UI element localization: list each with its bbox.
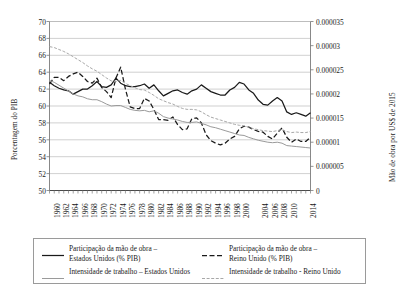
chart-container: Porcentagem do PIB Mão de obra por US$ d…: [0, 0, 400, 294]
x-tick-label: 2004: [261, 203, 270, 218]
y-tick-label-right: 0: [316, 186, 320, 195]
y-tick-label-left: 52: [39, 169, 46, 178]
legend-swatch-icon: [42, 269, 64, 278]
x-tick-label: 1968: [90, 203, 99, 218]
x-tick-label: 1978: [138, 203, 147, 218]
y-tick-label-right: 0.000035: [316, 17, 344, 26]
x-tick-label: 1990: [195, 203, 204, 218]
y-tick-label-left: 54: [39, 152, 46, 161]
x-tick-label: 2008: [280, 203, 289, 218]
y-tick-label-left: 56: [39, 135, 46, 144]
y-tick-label-left: 62: [39, 85, 46, 94]
x-tick-label: 1964: [71, 203, 80, 218]
y-tick-label-right: 0.000005: [316, 162, 344, 171]
x-tick-label: 1986: [176, 203, 185, 218]
legend-item: Intensidade de trabalho - Reino Unido: [202, 267, 362, 278]
y-tick-label-right: 0.00002: [316, 89, 340, 98]
y-tick-label-right: 0.000025: [316, 65, 344, 74]
x-tick-label: 1976: [128, 203, 137, 218]
y-axis-title-right: Mão de obra por US$ de 2015: [389, 92, 397, 182]
y-tick-label-left: 66: [39, 51, 46, 60]
x-tick-label: 1974: [119, 203, 128, 218]
y-tick-label-right: 0.00001: [316, 138, 340, 147]
y-tick-label-left: 68: [39, 34, 46, 43]
x-tick-label: 1980: [147, 203, 156, 218]
chart-legend: Participação da mão de obra – Estados Un…: [33, 238, 366, 284]
x-tick-label: 1972: [109, 203, 118, 218]
legend-swatch-icon: [202, 269, 224, 278]
x-tick-label: 1998: [233, 203, 242, 218]
y-tick-label-left: 50: [39, 186, 46, 195]
y-tick-label-right: 0.00003: [316, 41, 340, 50]
x-tick-label: 2006: [271, 203, 280, 218]
x-tick-label: 1994: [214, 203, 223, 218]
x-tick-label: 1962: [62, 203, 71, 218]
x-tick-label: 2014: [309, 203, 318, 218]
x-tick-label: 1996: [223, 203, 232, 218]
legend-swatch-icon: [42, 246, 64, 255]
y-tick-label-left: 64: [39, 68, 46, 77]
x-tick-label: 1982: [157, 203, 166, 218]
y-tick-label-left: 70: [39, 17, 46, 26]
y-tick-label-right: 0.000015: [316, 114, 344, 123]
x-tick-label: 1992: [204, 203, 213, 218]
legend-item: Participação da mão de obra – Estados Un…: [42, 244, 192, 263]
x-tick-label: 1984: [166, 203, 175, 218]
y-axis-title-left: Porcentagem do PIB: [11, 99, 19, 160]
legend-label: Participação da mão de obra – Reino Unid…: [229, 244, 317, 263]
legend-swatch-icon: [202, 246, 224, 255]
x-tick-label: 1960: [53, 203, 62, 218]
legend-item: Intensidade de trabalho – Estados Unidos: [42, 267, 200, 278]
x-tick-label: 2010: [290, 203, 299, 218]
x-tick-label: 1988: [185, 203, 194, 218]
x-tick-label: 1966: [81, 203, 90, 218]
y-tick-label-left: 58: [39, 118, 46, 127]
x-tick-label: 2000: [242, 203, 251, 218]
y-tick-label-left: 60: [39, 102, 46, 111]
legend-label: Intensidade de trabalho - Reino Unido: [229, 267, 341, 277]
legend-label: Participação da mão de obra – Estados Un…: [69, 244, 157, 263]
x-tick-label: 1970: [100, 203, 109, 218]
legend-label: Intensidade de trabalho – Estados Unidos: [69, 267, 190, 277]
legend-item: Participação da mão de obra – Reino Unid…: [202, 244, 362, 263]
